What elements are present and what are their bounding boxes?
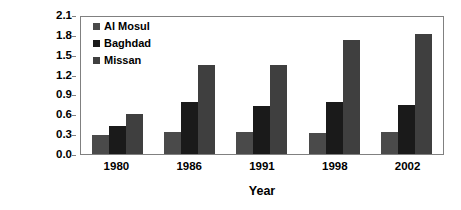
legend: Al MosulBaghdadMissan <box>93 19 151 68</box>
bar-missan-1986[interactable] <box>198 65 215 154</box>
bar-baghdad-1998[interactable] <box>326 102 343 154</box>
bar-al-mosul-1986[interactable] <box>164 132 181 155</box>
bar-al-mosul-1991[interactable] <box>236 132 253 155</box>
bar-chart: Salinity (ppt) 0.00.30.60.91.21.51.82.1 … <box>0 0 461 210</box>
bar-baghdad-2002[interactable] <box>398 105 415 154</box>
legend-item-baghdad[interactable]: Baghdad <box>93 36 151 51</box>
y-tick-mark <box>72 135 76 136</box>
x-tick-label-1980: 1980 <box>86 160 146 172</box>
bar-group-1986 <box>164 17 215 154</box>
legend-item-al-mosul[interactable]: Al Mosul <box>93 19 151 34</box>
y-tick-mark <box>72 155 76 156</box>
legend-item-missan[interactable]: Missan <box>93 53 151 68</box>
y-tick-label: 0.0 <box>56 149 72 160</box>
legend-label: Missan <box>104 55 141 66</box>
x-axis-title: Year <box>80 184 444 198</box>
legend-swatch-icon <box>93 40 100 47</box>
y-tick-mark <box>72 95 76 96</box>
bar-missan-1991[interactable] <box>270 65 287 154</box>
x-tick-label-1986: 1986 <box>159 160 219 172</box>
x-axis-ticks: 19801986199119982002 <box>80 160 444 178</box>
legend-label: Baghdad <box>104 38 151 49</box>
y-tick-label: 1.2 <box>56 70 72 81</box>
y-tick-label: 1.5 <box>56 50 72 61</box>
x-tick-label-1998: 1998 <box>305 160 365 172</box>
plot-area: Al MosulBaghdadMissan <box>80 16 444 155</box>
bar-al-mosul-1998[interactable] <box>309 133 326 154</box>
legend-swatch-icon <box>93 57 100 64</box>
bar-baghdad-1986[interactable] <box>181 102 198 154</box>
y-tick-mark <box>72 16 76 17</box>
y-tick-label: 0.9 <box>56 89 72 100</box>
bar-group-1991 <box>236 17 287 154</box>
y-tick-mark <box>72 115 76 116</box>
bar-baghdad-1991[interactable] <box>253 106 270 154</box>
bar-baghdad-1980[interactable] <box>109 126 126 154</box>
bar-missan-1980[interactable] <box>126 114 143 154</box>
bar-group-2002 <box>381 17 432 154</box>
bar-al-mosul-2002[interactable] <box>381 132 398 154</box>
legend-label: Al Mosul <box>104 21 150 32</box>
x-tick-label-2002: 2002 <box>378 160 438 172</box>
y-tick-label: 0.3 <box>56 129 72 140</box>
bar-missan-2002[interactable] <box>415 34 432 154</box>
y-tick-mark <box>72 76 76 77</box>
y-tick-label: 2.1 <box>56 10 72 21</box>
y-tick-mark <box>72 56 76 57</box>
y-axis-ticks: 0.00.30.60.91.21.51.82.1 <box>36 8 76 168</box>
y-tick-mark <box>72 36 76 37</box>
bar-missan-1998[interactable] <box>343 40 360 155</box>
x-tick-label-1991: 1991 <box>232 160 292 172</box>
bar-group-1998 <box>309 17 360 154</box>
y-tick-label: 0.6 <box>56 109 72 120</box>
y-tick-label: 1.8 <box>56 30 72 41</box>
bar-al-mosul-1980[interactable] <box>92 135 109 154</box>
legend-swatch-icon <box>93 23 100 30</box>
